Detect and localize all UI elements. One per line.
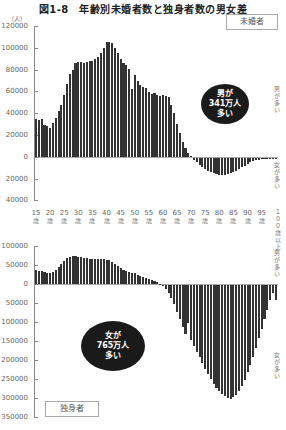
y-tick-label: 120000 bbox=[0, 22, 28, 30]
x-tick-label: 35歳 bbox=[85, 209, 99, 225]
bar bbox=[173, 285, 175, 304]
y-tick-label: 300000 bbox=[0, 394, 28, 402]
bar bbox=[145, 278, 147, 284]
bar bbox=[74, 256, 76, 284]
y-tick-label: 40000 bbox=[0, 109, 28, 117]
y-tick-label: 100000 bbox=[0, 318, 28, 326]
bar bbox=[89, 259, 91, 284]
bar bbox=[153, 93, 155, 157]
bar bbox=[80, 257, 82, 284]
bar bbox=[108, 42, 110, 157]
bar bbox=[100, 259, 102, 284]
bar bbox=[122, 63, 124, 157]
bar bbox=[170, 285, 172, 298]
y-tick-label: 20000 bbox=[0, 175, 28, 183]
y-tick-label: 20000 bbox=[0, 131, 28, 139]
bar bbox=[218, 285, 220, 391]
bar bbox=[114, 48, 116, 157]
bar bbox=[128, 272, 130, 284]
bar bbox=[66, 84, 68, 157]
bar bbox=[230, 285, 232, 399]
bar bbox=[275, 285, 277, 300]
y-tick-mark bbox=[34, 341, 38, 342]
bar bbox=[148, 279, 150, 284]
bar bbox=[66, 258, 68, 284]
y-tick-mark bbox=[34, 200, 38, 201]
bar bbox=[134, 75, 136, 157]
bar bbox=[111, 262, 113, 284]
bar bbox=[241, 158, 243, 167]
bar bbox=[193, 158, 195, 160]
bar bbox=[49, 273, 51, 284]
bar bbox=[232, 285, 234, 397]
bar bbox=[187, 285, 189, 323]
y-tick-label: 0 bbox=[0, 153, 28, 161]
bar bbox=[187, 153, 189, 157]
bar bbox=[176, 285, 178, 312]
bar bbox=[83, 258, 85, 284]
y-tick-mark bbox=[34, 303, 38, 304]
bar bbox=[184, 148, 186, 157]
bar bbox=[193, 285, 195, 346]
bar bbox=[201, 158, 203, 167]
y-tick-label: 150000 bbox=[0, 337, 28, 345]
bar bbox=[156, 282, 158, 284]
bar bbox=[35, 119, 37, 157]
bar bbox=[125, 271, 127, 284]
bar bbox=[255, 285, 257, 348]
bar bbox=[173, 113, 175, 157]
x-tick-label: 85歳 bbox=[226, 209, 240, 225]
bubble-line-2: 765万人 bbox=[97, 341, 130, 351]
y-tick-label: 0 bbox=[0, 280, 28, 288]
y-tick-label: 100000 bbox=[0, 242, 28, 250]
bar bbox=[108, 260, 110, 284]
y-tick-mark bbox=[34, 417, 38, 418]
bar bbox=[213, 285, 215, 384]
y-tick-mark bbox=[34, 91, 38, 92]
bar bbox=[72, 70, 74, 157]
bar bbox=[252, 285, 254, 357]
bar bbox=[148, 92, 150, 158]
bar bbox=[86, 62, 88, 157]
bar bbox=[43, 125, 45, 157]
bubble-line-1: 男が bbox=[217, 89, 233, 99]
bar bbox=[69, 257, 71, 284]
bar bbox=[255, 158, 257, 160]
bar bbox=[131, 89, 133, 157]
bar bbox=[238, 158, 240, 169]
bar bbox=[58, 267, 60, 284]
bar bbox=[232, 158, 234, 172]
bar bbox=[83, 63, 85, 157]
bar bbox=[269, 158, 271, 159]
bar bbox=[247, 285, 249, 372]
bar bbox=[261, 158, 263, 159]
bar bbox=[100, 53, 102, 157]
bar bbox=[86, 258, 88, 284]
x-tick-label: 60歳 bbox=[156, 209, 170, 225]
bar bbox=[38, 271, 40, 284]
bar bbox=[134, 273, 136, 284]
bar bbox=[266, 158, 268, 159]
bar bbox=[120, 59, 122, 157]
bar bbox=[106, 42, 108, 157]
x-tick-label: 65歳 bbox=[170, 209, 184, 225]
bar bbox=[261, 285, 263, 329]
bar bbox=[272, 158, 274, 159]
x-tick-label: 80歳 bbox=[212, 209, 226, 225]
bar bbox=[263, 158, 265, 159]
bar bbox=[162, 285, 164, 286]
bar bbox=[258, 285, 260, 338]
y-tick-mark bbox=[34, 284, 38, 285]
bar bbox=[182, 142, 184, 157]
bar bbox=[272, 285, 274, 293]
bar bbox=[168, 97, 170, 157]
x-tick-label: 40歳 bbox=[100, 209, 114, 225]
y-tick-label: 60000 bbox=[0, 87, 28, 95]
bar bbox=[97, 57, 99, 157]
y-tick-mark bbox=[34, 113, 38, 114]
bar bbox=[204, 285, 206, 369]
bubble-line-3: 多い bbox=[105, 351, 121, 361]
bar bbox=[258, 158, 260, 160]
bar bbox=[94, 259, 96, 284]
bar bbox=[139, 85, 141, 157]
